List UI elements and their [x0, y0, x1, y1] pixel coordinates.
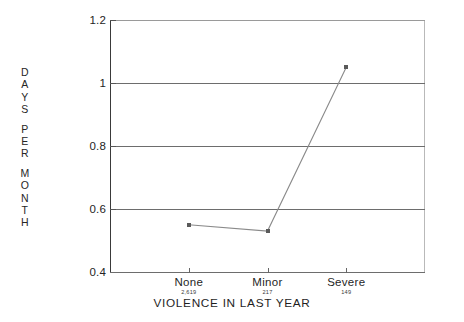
data-point-marker: [266, 229, 270, 233]
data-series: [0, 0, 464, 322]
data-point-marker: [344, 65, 348, 69]
data-point-marker: [187, 223, 191, 227]
series-line: [189, 67, 347, 231]
chart-figure: 0.40.60.811.2 DAYSPERMONTH None2,619Mino…: [0, 0, 464, 322]
